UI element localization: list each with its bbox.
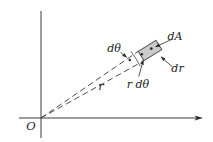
dtheta-leader-arrow — [121, 53, 127, 58]
origin-label: O — [26, 119, 36, 133]
da-label: dA — [168, 30, 183, 43]
element-center-dot — [150, 47, 153, 50]
radius-label: r — [98, 79, 105, 93]
dtheta-dot — [129, 59, 132, 62]
polar-area-element-diagram: O r dθ dA dr r dθ — [0, 0, 213, 142]
dtheta-label: dθ — [107, 42, 121, 55]
dr-leader-arrow — [161, 57, 172, 67]
dr-label: dr — [171, 62, 184, 75]
r-dtheta-label: r dθ — [127, 78, 150, 91]
area-element-rect — [138, 40, 162, 60]
arc-edge-dot — [141, 53, 144, 56]
area-element-group — [138, 40, 162, 60]
upper-radial-dashed-line — [41, 51, 138, 118]
